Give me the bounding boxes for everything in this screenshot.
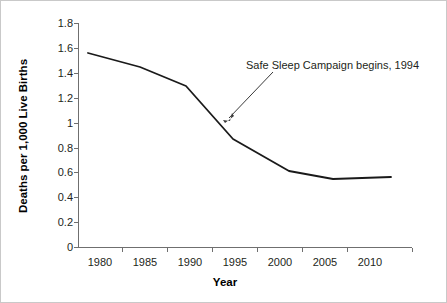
y-tick-label-1-6: 1.6 <box>58 42 73 54</box>
y-tick-label-1-4: 1.4 <box>58 67 73 79</box>
chart-figure-frame: Deaths per 1,000 Live Births 0 0.2 0.4 0… <box>0 0 447 303</box>
y-tick-label-1: 1 <box>67 117 73 129</box>
series-line-sids <box>88 53 391 179</box>
x-tick-marks <box>123 248 413 253</box>
y-axis-title: Deaths per 1,000 Live Births <box>17 59 29 213</box>
y-tick-label-0-8: 0.8 <box>58 142 73 154</box>
y-tick-label-0-4: 0.4 <box>58 191 73 203</box>
x-tick-label-1980: 1980 <box>88 256 112 268</box>
x-tick-label-2010: 2010 <box>358 256 382 268</box>
x-tick-label-1985: 1985 <box>133 256 157 268</box>
y-tick-label-1-8: 1.8 <box>58 17 73 29</box>
x-tick-label-2005: 2005 <box>313 256 337 268</box>
annotation-leader <box>223 72 273 123</box>
y-tick-label-0-2: 0.2 <box>58 216 73 228</box>
x-axis-title: Year <box>213 276 238 288</box>
y-tick-label-0: 0 <box>67 241 73 253</box>
x-tick-label-1990: 1990 <box>178 256 202 268</box>
y-tick-label-0-6: 0.6 <box>58 166 73 178</box>
line-chart: Deaths per 1,000 Live Births 0 0.2 0.4 0… <box>1 1 447 303</box>
x-tick-label-1995: 1995 <box>223 256 247 268</box>
y-tick-marks <box>74 24 79 248</box>
y-tick-label-1-2: 1.2 <box>58 92 73 104</box>
annotation-label: Safe Sleep Campaign begins, 1994 <box>246 59 419 71</box>
x-tick-label-2000: 2000 <box>268 256 292 268</box>
